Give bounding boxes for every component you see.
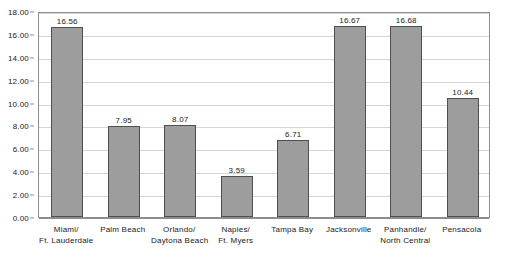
plot-area: 16.567.958.073.596.7116.6716.6810.44 xyxy=(38,12,490,218)
y-axis-tick-label: 10.00 xyxy=(8,99,29,108)
bar-slot: 7.95 xyxy=(96,13,153,217)
x-axis-tick-label-line: Jacksonville xyxy=(321,224,378,235)
bar-slot: 16.67 xyxy=(322,13,379,217)
x-axis-tick-label-line: Naples/ xyxy=(208,224,265,235)
y-axis-tick-mark xyxy=(30,57,34,58)
bar[interactable] xyxy=(390,26,422,217)
bar[interactable] xyxy=(334,26,366,217)
y-axis-tick-mark xyxy=(30,126,34,127)
bar[interactable] xyxy=(221,176,253,217)
bar-value-label: 10.44 xyxy=(452,88,473,97)
x-axis-tick-label-line: Tampa Bay xyxy=(264,224,321,235)
x-axis-tick-label-line: Pensacola xyxy=(434,224,491,235)
bar-slot: 10.44 xyxy=(435,13,492,217)
y-axis-tick-mark xyxy=(30,80,34,81)
x-axis-tick-label-line: Miami/ xyxy=(38,224,95,235)
y-axis-tick-label: 8.00 xyxy=(13,122,29,131)
y-axis-tick-label: 6.00 xyxy=(13,145,29,154)
bar-value-label: 16.67 xyxy=(339,16,360,25)
y-axis-tick-mark xyxy=(30,218,34,219)
bar-slot: 16.68 xyxy=(378,13,435,217)
x-axis-tick-label: Tampa Bay xyxy=(264,224,321,235)
bar-chart: 0.002.004.006.008.0010.0012.0014.0016.00… xyxy=(0,0,513,260)
bar[interactable] xyxy=(51,27,83,217)
x-axis-tick-label-line: Orlando/ xyxy=(151,224,208,235)
gridline xyxy=(39,218,489,219)
y-axis-tick-mark xyxy=(30,195,34,196)
bar[interactable] xyxy=(108,126,140,217)
x-axis-tick-label: Pensacola xyxy=(434,224,491,235)
x-axis-tick-label: Jacksonville xyxy=(321,224,378,235)
y-axis-tick-label: 18.00 xyxy=(8,8,29,17)
y-axis-tick-label: 0.00 xyxy=(13,214,29,223)
x-axis-tick-label: Panhandle/North Central xyxy=(377,224,434,246)
bar-slot: 3.59 xyxy=(209,13,266,217)
x-axis-tick-label-line: Daytona Beach xyxy=(151,235,208,246)
bar-value-label: 6.71 xyxy=(285,130,301,139)
x-axis-tick-label-line: Ft. Lauderdale xyxy=(38,235,95,246)
bar-value-label: 16.68 xyxy=(396,16,417,25)
bar[interactable] xyxy=(164,125,196,217)
x-axis-tick-label-line: Ft. Myers xyxy=(208,235,265,246)
bar[interactable] xyxy=(277,140,309,217)
bar-value-label: 7.95 xyxy=(116,116,132,125)
y-axis-tick-label: 16.00 xyxy=(8,30,29,39)
bar-slot: 8.07 xyxy=(152,13,209,217)
x-axis-tick-label-line: Palm Beach xyxy=(95,224,152,235)
x-axis: Miami/Ft. LauderdalePalm BeachOrlando/Da… xyxy=(38,224,490,258)
bar[interactable] xyxy=(447,98,479,217)
bar-value-label: 16.56 xyxy=(57,17,78,26)
y-axis-tick-mark xyxy=(30,34,34,35)
y-axis-tick-label: 4.00 xyxy=(13,168,29,177)
x-axis-tick-label-line: Panhandle/ xyxy=(377,224,434,235)
x-axis-tick-label: Palm Beach xyxy=(95,224,152,235)
x-axis-tick-label: Orlando/Daytona Beach xyxy=(151,224,208,246)
bar-slot: 6.71 xyxy=(265,13,322,217)
bar-slot: 16.56 xyxy=(39,13,96,217)
y-axis-tick-label: 12.00 xyxy=(8,76,29,85)
y-axis-tick-mark xyxy=(30,103,34,104)
y-axis-tick-mark xyxy=(30,172,34,173)
x-axis-tick-label: Naples/Ft. Myers xyxy=(208,224,265,246)
bar-value-label: 3.59 xyxy=(229,166,245,175)
y-axis: 0.002.004.006.008.0010.0012.0014.0016.00… xyxy=(0,12,34,218)
y-axis-tick-label: 2.00 xyxy=(13,191,29,200)
x-axis-tick-label-line: North Central xyxy=(377,235,434,246)
x-axis-tick-label: Miami/Ft. Lauderdale xyxy=(38,224,95,246)
y-axis-tick-label: 14.00 xyxy=(8,53,29,62)
y-axis-tick-mark xyxy=(30,149,34,150)
y-axis-tick-mark xyxy=(30,12,34,13)
bar-value-label: 8.07 xyxy=(172,115,188,124)
